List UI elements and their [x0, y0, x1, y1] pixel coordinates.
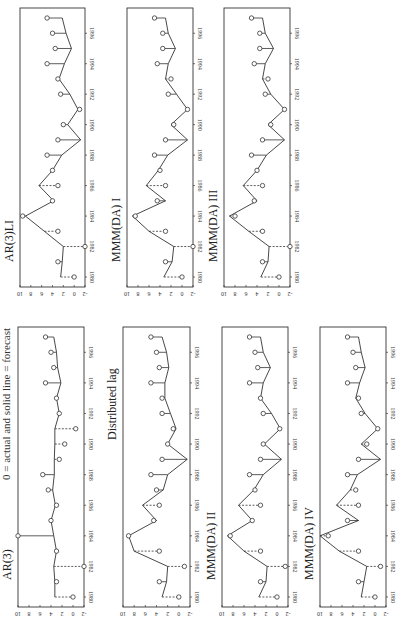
plot-frame: [224, 8, 290, 287]
value-tick-label: 0: [181, 291, 184, 297]
actual-point: [160, 411, 164, 415]
actual-point: [266, 77, 270, 81]
actual-point: [376, 427, 380, 431]
value-tick-label: 2: [62, 291, 65, 297]
year-tick-label: 1982: [294, 241, 300, 253]
actual-point: [356, 396, 360, 400]
chart-panel-mmm-da-iii: 1086420-21980198219841986198819901992199…: [206, 8, 300, 297]
value-tick-label: 10: [221, 291, 227, 297]
figure-caption: 0 = actual and solid line = forecast: [0, 328, 12, 480]
actual-point: [152, 518, 156, 522]
actual-point: [261, 442, 265, 446]
year-tick-label: 1986: [294, 180, 300, 192]
actual-point: [356, 503, 360, 507]
year-tick-label: 1980: [197, 271, 203, 283]
actual-point: [83, 244, 87, 248]
actual-point: [56, 229, 60, 233]
actual-point: [71, 595, 75, 599]
actual-point: [260, 260, 264, 264]
year-tick-label: 1982: [194, 560, 200, 572]
value-tick-label: -2: [288, 291, 293, 297]
actual-point: [41, 472, 45, 476]
actual-point: [161, 46, 165, 50]
actual-point: [152, 16, 156, 20]
value-tick-label: 2: [61, 611, 64, 617]
actual-point: [45, 62, 49, 66]
value-tick-label: -2: [82, 611, 87, 617]
actual-point: [149, 335, 153, 339]
year-tick-label: 1996: [197, 27, 203, 39]
year-tick-label: 1996: [89, 27, 95, 39]
value-tick-label: -2: [188, 611, 193, 617]
value-tick-label: 8: [29, 291, 32, 297]
actual-point: [56, 260, 60, 264]
actual-point: [260, 138, 264, 142]
actual-point: [163, 183, 167, 187]
panel-title: Distributed lag: [105, 368, 119, 440]
actual-point: [52, 365, 56, 369]
year-tick-label: 1994: [89, 58, 95, 70]
actual-point: [154, 350, 158, 354]
actual-point: [345, 518, 349, 522]
value-tick-label: -2: [286, 611, 291, 617]
year-tick-label: 1992: [194, 407, 200, 419]
year-tick-label: 1986: [89, 180, 95, 192]
actual-point: [46, 488, 50, 492]
actual-point: [263, 92, 267, 96]
year-tick-label: 1980: [194, 591, 200, 603]
year-tick-label: 1982: [88, 560, 94, 572]
year-tick-label: 1996: [292, 346, 298, 358]
actual-point: [58, 92, 62, 96]
value-tick-label: 0: [72, 611, 75, 617]
actual-point: [56, 77, 60, 81]
panel-title: MMM(DA) I: [109, 198, 123, 262]
actual-point: [233, 214, 237, 218]
actual-point: [50, 31, 54, 35]
actual-point: [163, 229, 167, 233]
year-tick-label: 1996: [88, 346, 94, 358]
year-tick-label: 1994: [390, 377, 396, 389]
actual-point: [155, 199, 159, 203]
actual-point: [278, 427, 282, 431]
value-tick-label: -2: [83, 291, 88, 297]
panel-title: MMM(DA) IV: [302, 507, 316, 580]
actual-point: [249, 153, 253, 157]
actual-point: [45, 16, 49, 20]
value-tick-label: 6: [341, 611, 344, 617]
actual-point: [61, 122, 65, 126]
value-tick-label: 6: [245, 291, 248, 297]
year-tick-label: 1982: [89, 241, 95, 253]
year-tick-label: 1982: [390, 560, 396, 572]
year-tick-label: 1996: [194, 346, 200, 358]
plot-frame: [222, 327, 288, 607]
panel-title: MMM(DA) III: [206, 190, 220, 262]
forecast-line: [230, 18, 285, 277]
actual-point: [288, 244, 292, 248]
year-tick-label: 1980: [89, 271, 95, 283]
actual-point: [149, 472, 153, 476]
actual-point: [282, 107, 286, 111]
actual-point: [63, 442, 67, 446]
year-tick-label: 1984: [294, 210, 300, 222]
actual-point: [53, 46, 57, 50]
actual-point: [57, 457, 61, 461]
value-tick-label: 10: [17, 291, 23, 297]
actual-point: [43, 335, 47, 339]
forecast-line: [51, 337, 61, 597]
actual-point: [166, 92, 170, 96]
year-tick-label: 1984: [390, 530, 396, 542]
actual-point: [182, 564, 186, 568]
actual-point: [258, 549, 262, 553]
actual-point: [157, 549, 161, 553]
year-tick-label: 1986: [88, 499, 94, 511]
actual-point: [247, 472, 251, 476]
actual-point: [365, 442, 369, 446]
actual-point: [77, 107, 81, 111]
actual-point: [163, 138, 167, 142]
year-tick-label: 1994: [194, 377, 200, 389]
actual-point: [157, 580, 161, 584]
value-tick-label: 6: [243, 611, 246, 617]
actual-point: [157, 503, 161, 507]
actual-point: [165, 442, 169, 446]
value-tick-label: 2: [363, 611, 366, 617]
